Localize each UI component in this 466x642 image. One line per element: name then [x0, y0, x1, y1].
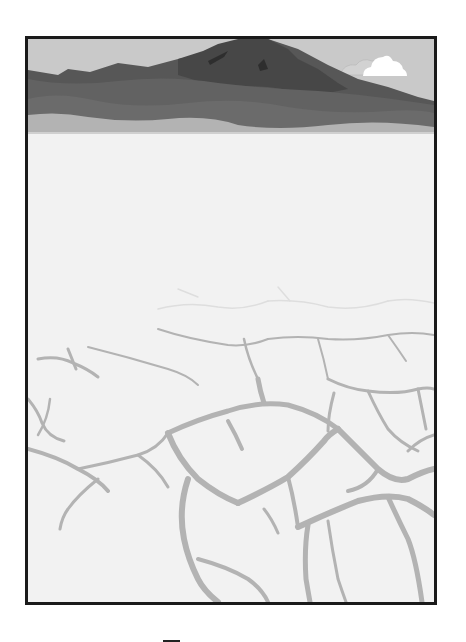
horizon-line: [28, 132, 434, 134]
ground: [28, 134, 434, 602]
desert-landscape-illustration: [28, 39, 434, 602]
illustration-frame: [25, 36, 437, 605]
